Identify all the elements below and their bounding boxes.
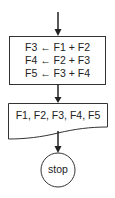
arrow-into-process <box>55 12 62 36</box>
output-label: F1, F2, F3, F4, F5 <box>9 109 107 122</box>
process-line-1: F3 ← F1 + F2 <box>10 41 105 54</box>
arrow-output-to-stop <box>55 131 62 153</box>
stop-label: stop <box>41 163 75 176</box>
arrow-process-to-output <box>55 84 62 103</box>
process-line-2: F4 ← F2 + F3 <box>10 54 105 67</box>
process-line-3: F5 ← F3 + F4 <box>10 67 105 80</box>
